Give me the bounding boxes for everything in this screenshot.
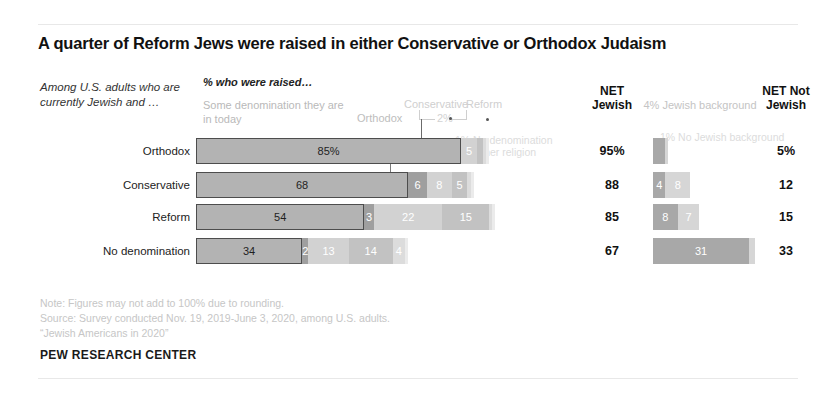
bar-segment-none: 4 [393, 238, 405, 264]
row-label-orthodox: Orthodox [35, 138, 190, 164]
brand-pew-research-center: PEW RESEARCH CENTER [40, 348, 196, 362]
bar-segment-other [405, 238, 408, 264]
stacked-bar: 68685 [196, 172, 474, 198]
net-jewish-value: 88 [586, 172, 638, 198]
net-not-jewish-value: 5% [755, 138, 817, 164]
header-percent-raised: % who were raised… [203, 76, 312, 88]
net-not-jewish-value: 12 [755, 172, 817, 198]
net-not-jewish-value: 15 [755, 204, 817, 230]
table-row: Conservative68685884812 [0, 172, 835, 198]
bar-segment-njb: 8 [665, 172, 690, 198]
stacked-bar: 85%5 [196, 138, 489, 164]
page-title: A quarter of Reform Jews were raised in … [38, 34, 818, 53]
net-jewish-value: 67 [586, 238, 638, 264]
table-row: Reform5432215858715 [0, 204, 835, 230]
bar-segment-main: 34 [196, 238, 302, 264]
bar-segment-jb [653, 138, 665, 164]
note-line: Note: Figures may not add to 100% due to… [40, 296, 560, 311]
bar-segment-ref: 15 [442, 204, 489, 230]
net-jewish-value: 85 [586, 204, 638, 230]
bar-segment-other [471, 172, 474, 198]
bar-segment-jb: 8 [653, 204, 678, 230]
leader-dot-reform [449, 117, 452, 120]
legend-orthodox: Orthodox [357, 112, 402, 124]
net-jewish-value: 95% [586, 138, 638, 164]
report-line: “Jewish Americans in 2020” [40, 326, 560, 341]
bar-segment-jb: 31 [653, 238, 749, 264]
row-label-reform: Reform [35, 204, 190, 230]
legend-conservative: Conservative [404, 98, 468, 110]
bar-segment-main: 54 [196, 204, 364, 230]
net-not-jewish-value: 33 [755, 238, 817, 264]
bar-segment-jb: 4 [653, 172, 665, 198]
legend-reform: Reform [466, 98, 502, 110]
bar-segment-njb: 7 [678, 204, 700, 230]
header-net-not-jewish: NET Not Jewish [755, 84, 817, 112]
net-not-jewish-bar: 48 [653, 172, 690, 198]
bar-segment-main: 85% [196, 138, 461, 164]
stacked-bar: 34213144 [196, 238, 408, 264]
net-not-jewish-bar [653, 138, 668, 164]
bar-segment-orth: 6 [408, 172, 427, 198]
table-row: Orthodox85%595%5% [0, 138, 835, 164]
bottom-divider [38, 378, 798, 379]
net-not-jewish-bar: 87 [653, 204, 699, 230]
bar-segment-cons: 8 [427, 172, 452, 198]
net-not-jewish-bar: 31 [653, 238, 755, 264]
header-net-jewish: NET Jewish [586, 84, 638, 112]
chart-notes: Note: Figures may not add to 100% due to… [40, 296, 560, 341]
bar-segment-cons: 22 [374, 204, 443, 230]
legend-jewish-background: 4% Jewish background [640, 98, 760, 112]
bar-segment-main: 68 [196, 172, 408, 198]
bar-segment-cons: 13 [308, 238, 349, 264]
bar-segment-other [486, 138, 489, 164]
top-divider [38, 24, 798, 25]
bar-segment-ref: 14 [349, 238, 393, 264]
lead-in-text: Among U.S. adults who are currently Jewi… [40, 80, 190, 110]
bar-segment-other [492, 204, 495, 230]
legend-some-denomination: Some denomination they are in today [203, 98, 353, 126]
chart-page: A quarter of Reform Jews were raised in … [0, 0, 835, 400]
row-label-conservative: Conservative [35, 172, 190, 198]
bar-segment-cons: 5 [461, 138, 477, 164]
leader-dot-annotation [486, 118, 489, 121]
leader-line-reform-horizontal [451, 119, 467, 120]
stacked-bar: 5432215 [196, 204, 495, 230]
table-row: No denomination34213144673133 [0, 238, 835, 264]
bar-segment-orth: 3 [364, 204, 373, 230]
bar-segment-njb [665, 138, 668, 164]
row-label-no-denomination: No denomination [35, 238, 190, 264]
source-line: Source: Survey conducted Nov. 19, 2019-J… [40, 311, 560, 326]
bar-segment-ref: 5 [452, 172, 468, 198]
